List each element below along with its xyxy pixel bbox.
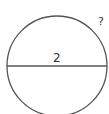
unknown-label: ? [98,16,104,27]
diameter-label: 2 [53,52,61,64]
circle [7,16,107,114]
